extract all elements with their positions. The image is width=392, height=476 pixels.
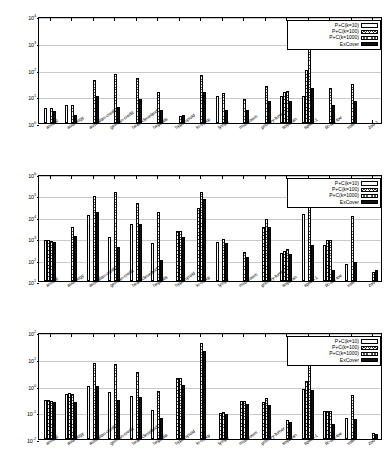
- legend-swatch: [361, 36, 378, 40]
- y-axis-tick: [37, 334, 40, 335]
- y-axis-minor-tick: [38, 59, 40, 60]
- y-axis-minor-tick: [38, 234, 40, 235]
- bar: [139, 224, 142, 281]
- y-axis-minor-tick: [38, 353, 40, 354]
- bar-group: [130, 18, 142, 123]
- y-axis-minor-tick: [38, 375, 40, 376]
- y-axis-minor-tick: [38, 85, 40, 86]
- legend: P+C(k=10)P+C(k=100)P+C(k=1000)ExCover: [287, 178, 381, 208]
- chart-panel-2: 101102103104105106P+C(k=10)P+C(k=100)P+C…: [0, 158, 392, 316]
- y-axis-minor-tick: [38, 224, 40, 225]
- bar-group: [44, 334, 56, 439]
- legend-swatch: [361, 346, 378, 350]
- y-axis-minor-tick: [38, 247, 40, 248]
- y-axis-minor-tick: [38, 199, 40, 200]
- bar: [354, 101, 357, 123]
- y-axis-minor-tick: [38, 178, 40, 179]
- y-axis-minor-tick: [38, 338, 40, 339]
- y-axis-label: 104: [28, 14, 36, 21]
- legend-swatch: [361, 42, 378, 46]
- y-axis-label: 101: [28, 95, 36, 102]
- y-axis-minor-tick: [38, 241, 40, 242]
- bar: [302, 214, 305, 281]
- y-axis-minor-tick: [38, 76, 40, 77]
- y-axis-minor-tick: [38, 32, 40, 33]
- y-axis-tick: [37, 176, 40, 177]
- bar-group: [130, 334, 142, 439]
- y-axis-minor-tick: [38, 230, 40, 231]
- y-axis-label: 103: [28, 41, 36, 48]
- plot-area-3: 10-210-1100101102P+C(k=10)P+C(k=100)P+C(…: [38, 333, 382, 440]
- plot-area-1: 100101102103104P+C(k=10)P+C(k=100)P+C(k=…: [38, 17, 382, 124]
- y-axis-minor-tick: [38, 273, 40, 274]
- bar-group: [44, 176, 56, 281]
- y-axis-minor-tick: [38, 415, 40, 416]
- y-axis-minor-tick: [38, 277, 40, 278]
- y-axis-minor-tick: [38, 202, 40, 203]
- bar-group: [151, 176, 163, 281]
- chart-panel-3: 10-210-1100101102P+C(k=10)P+C(k=100)P+C(…: [0, 316, 392, 474]
- y-axis-minor-tick: [38, 337, 40, 338]
- y-axis-minor-tick: [38, 198, 40, 199]
- y-axis-minor-tick: [38, 365, 40, 366]
- bar-group: [173, 176, 185, 281]
- legend-swatch: [361, 181, 378, 185]
- y-axis-tick: [37, 262, 40, 263]
- bar: [203, 351, 206, 439]
- bar-group: [87, 176, 99, 281]
- y-axis-minor-tick: [38, 53, 40, 54]
- y-axis-minor-tick: [38, 220, 40, 221]
- y-axis-minor-tick: [38, 406, 40, 407]
- y-axis-minor-tick: [38, 204, 40, 205]
- y-axis-minor-tick: [38, 19, 40, 20]
- legend-swatch: [361, 188, 378, 192]
- bar-group: [216, 176, 228, 281]
- y-axis-minor-tick: [38, 47, 40, 48]
- y-axis-label: 10-2: [27, 437, 36, 444]
- y-axis-label: 102: [28, 68, 36, 75]
- y-axis-tick: [37, 240, 40, 241]
- y-axis-minor-tick: [38, 201, 40, 202]
- bar-group: [173, 334, 185, 439]
- legend-swatch: [361, 23, 378, 27]
- y-axis-minor-tick: [38, 242, 40, 243]
- y-axis-minor-tick: [38, 227, 40, 228]
- y-axis-label: 101: [28, 357, 36, 364]
- bar-group: [173, 18, 185, 123]
- y-axis-tick: [37, 18, 40, 19]
- y-axis-tick: [37, 45, 40, 46]
- y-axis-minor-tick: [38, 362, 40, 363]
- y-axis-tick: [37, 441, 40, 442]
- y-axis-minor-tick: [38, 393, 40, 394]
- y-axis-minor-tick: [38, 209, 40, 210]
- bar-group: [87, 334, 99, 439]
- y-axis-label: 103: [28, 237, 36, 244]
- y-axis-minor-tick: [38, 379, 40, 380]
- y-axis-minor-tick: [38, 21, 40, 22]
- bar: [139, 397, 142, 439]
- y-axis-minor-tick: [38, 109, 40, 110]
- y-axis-minor-tick: [38, 187, 40, 188]
- y-axis-minor-tick: [38, 392, 40, 393]
- y-axis-minor-tick: [38, 26, 40, 27]
- y-axis-minor-tick: [38, 49, 40, 50]
- y-axis-minor-tick: [38, 46, 40, 47]
- y-axis-minor-tick: [38, 422, 40, 423]
- y-axis-label: 102: [28, 258, 36, 265]
- y-axis-minor-tick: [38, 264, 40, 265]
- legend-label: ExCover: [340, 358, 359, 363]
- plot-area-2: 101102103104105106P+C(k=10)P+C(k=100)P+C…: [38, 175, 382, 282]
- y-axis-minor-tick: [38, 212, 40, 213]
- bar-group: [65, 334, 77, 439]
- y-axis-minor-tick: [38, 345, 40, 346]
- bar: [225, 243, 228, 281]
- legend-label: P+C(k=1000): [329, 351, 359, 356]
- legend: P+C(k=10)P+C(k=100)P+C(k=1000)ExCover: [287, 336, 381, 366]
- legend-item: ExCover: [290, 357, 378, 363]
- legend-swatch: [361, 200, 378, 204]
- y-axis-minor-tick: [38, 418, 40, 419]
- y-axis-minor-tick: [38, 268, 40, 269]
- bar-group: [65, 18, 77, 123]
- y-axis-tick: [37, 283, 40, 284]
- y-axis-minor-tick: [38, 270, 40, 271]
